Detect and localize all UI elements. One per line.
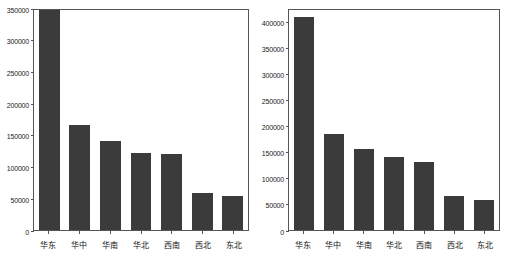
bar-西北[interactable]: [192, 193, 213, 230]
y-tick-label: 150000: [7, 133, 29, 140]
y-tick-label: 250000: [7, 69, 29, 76]
bar-slot: [95, 10, 126, 230]
x-axis-label-left-3: 华北: [126, 234, 157, 252]
x-axis-label-left-1: 华中: [64, 234, 95, 252]
y-tick-label: 100000: [262, 176, 284, 183]
bar-slot: [439, 10, 469, 230]
bar-华南[interactable]: [100, 141, 121, 230]
bar-华北[interactable]: [384, 157, 404, 230]
x-axis-labels-right: 华东华中华南华北西南西北东北: [288, 234, 500, 252]
x-axis-label-text: 东北: [477, 241, 493, 250]
bar-华中[interactable]: [69, 125, 90, 230]
x-axis-label-left-4: 西南: [156, 234, 187, 252]
y-tick-label: 100000: [7, 165, 29, 172]
x-axis-label-text: 华东: [295, 241, 311, 250]
y-tick-label: 400000: [262, 19, 284, 26]
x-axis-label-text: 东北: [226, 241, 242, 250]
y-tick-label: 150000: [262, 150, 284, 157]
y-axis-left: 0500001000001500002000002500003000003500…: [0, 9, 34, 231]
x-axis-label-text: 华北: [386, 241, 402, 250]
plot-area-right: [288, 9, 500, 231]
bar-slot: [217, 10, 248, 230]
bar-series-left: [34, 10, 248, 230]
bar-slot: [379, 10, 409, 230]
y-tick-label: 0: [25, 228, 29, 235]
two-panel-bar-chart-figure: 0500001000001500002000002500003000003500…: [0, 0, 508, 265]
chart-panel-right: 0500001000001500002000002500003000003500…: [254, 0, 508, 265]
y-tick-label: 350000: [7, 6, 29, 13]
x-axis-label-text: 华东: [40, 241, 56, 250]
y-axis-right: 0500001000001500002000002500003000003500…: [254, 9, 289, 231]
bar-slot: [156, 10, 187, 230]
bar-slot: [469, 10, 499, 230]
y-tick-label: 250000: [262, 97, 284, 104]
bar-华东[interactable]: [294, 17, 314, 230]
bar-slot: [65, 10, 96, 230]
bar-华南[interactable]: [354, 149, 374, 230]
x-axis-label-right-6: 东北: [470, 234, 500, 252]
bar-slot: [187, 10, 218, 230]
x-axis-label-text: 华中: [71, 241, 87, 250]
x-axis-label-right-0: 华东: [288, 234, 318, 252]
x-axis-label-left-2: 华南: [95, 234, 126, 252]
x-axis-label-left-6: 东北: [218, 234, 249, 252]
x-axis-label-right-4: 西南: [409, 234, 439, 252]
y-tick-label: 300000: [7, 38, 29, 45]
x-axis-label-right-3: 华北: [379, 234, 409, 252]
bar-华北[interactable]: [131, 153, 152, 230]
bar-西南[interactable]: [414, 162, 434, 230]
bar-东北[interactable]: [222, 196, 243, 230]
x-axis-label-text: 华南: [102, 241, 118, 250]
y-tick-label: 50000: [11, 196, 29, 203]
x-axis-label-text: 西北: [195, 241, 211, 250]
y-tick-label: 50000: [266, 202, 284, 209]
bar-西南[interactable]: [161, 154, 182, 230]
y-tick-label: 0: [280, 228, 284, 235]
bar-东北[interactable]: [474, 200, 494, 230]
y-tick-label: 350000: [262, 45, 284, 52]
x-axis-label-text: 西北: [447, 241, 463, 250]
x-axis-label-right-1: 华中: [318, 234, 348, 252]
x-axis-label-left-0: 华东: [33, 234, 64, 252]
bar-series-right: [289, 10, 499, 230]
x-axis-label-text: 西南: [164, 241, 180, 250]
x-axis-label-left-5: 西北: [187, 234, 218, 252]
x-axis-label-text: 西南: [416, 241, 432, 250]
x-axis-labels-left: 华东华中华南华北西南西北东北: [33, 234, 249, 252]
x-axis-label-right-2: 华南: [349, 234, 379, 252]
bar-华东[interactable]: [39, 10, 60, 230]
y-tick-label: 200000: [262, 124, 284, 131]
x-axis-label-text: 华北: [133, 241, 149, 250]
plot-area-left: [33, 9, 249, 231]
bar-slot: [34, 10, 65, 230]
chart-panel-left: 0500001000001500002000002500003000003500…: [0, 0, 254, 265]
bar-华中[interactable]: [324, 134, 344, 230]
y-tick-label: 200000: [7, 101, 29, 108]
x-axis-label-text: 华中: [325, 241, 341, 250]
bar-西北[interactable]: [444, 196, 464, 230]
x-axis-label-text: 华南: [356, 241, 372, 250]
y-tick-label: 300000: [262, 71, 284, 78]
bar-slot: [409, 10, 439, 230]
bar-slot: [319, 10, 349, 230]
x-axis-label-right-5: 西北: [439, 234, 469, 252]
bar-slot: [289, 10, 319, 230]
bar-slot: [349, 10, 379, 230]
bar-slot: [126, 10, 157, 230]
